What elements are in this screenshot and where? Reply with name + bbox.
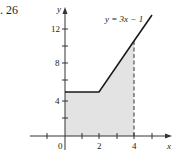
function-label: y = 3x − 1 bbox=[104, 14, 143, 24]
x-axis-label: x bbox=[166, 141, 171, 151]
area-under-curve-chart: 0 2 4 x 4 8 12 y y = 3x − 1 bbox=[0, 0, 173, 152]
y-axis-label: y bbox=[56, 4, 61, 14]
x-axis-arrow-icon bbox=[165, 134, 172, 139]
x-tick-label-0: 0 bbox=[58, 141, 63, 151]
x-tick-label-4: 4 bbox=[132, 141, 137, 151]
y-tick-label-12: 12 bbox=[51, 24, 60, 34]
y-tick-label-8: 8 bbox=[55, 58, 60, 68]
y-axis-arrow-icon bbox=[63, 7, 68, 14]
y-tick-label-4: 4 bbox=[55, 96, 60, 106]
x-tick-label-2: 2 bbox=[97, 141, 102, 151]
